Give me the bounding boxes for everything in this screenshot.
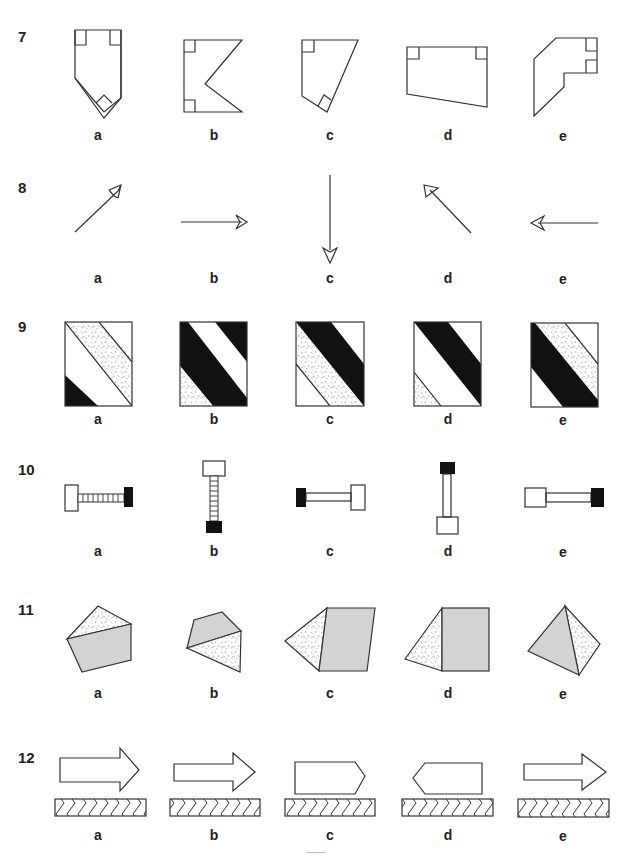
q8-label-a: a bbox=[88, 270, 108, 286]
q11-label-e: e bbox=[553, 686, 573, 702]
q9-option-b-square[interactable] bbox=[180, 322, 247, 406]
q7-label-d: d bbox=[438, 127, 458, 143]
q7-option-d-figure[interactable] bbox=[407, 47, 487, 107]
q11-label-b: b bbox=[204, 685, 224, 701]
q9-option-c-square[interactable] bbox=[296, 322, 364, 406]
q7-option-b-figure[interactable] bbox=[184, 40, 242, 112]
q9-option-e-square[interactable] bbox=[531, 323, 598, 407]
q9-label-a: a bbox=[88, 411, 108, 427]
q10-option-b-dumbbell[interactable] bbox=[203, 461, 225, 533]
q10-label-b: b bbox=[204, 543, 224, 559]
q9-label-d: d bbox=[438, 411, 458, 427]
q7-label-b: b bbox=[204, 127, 224, 143]
q12-option-c-pentagon[interactable] bbox=[285, 762, 375, 816]
q8-option-c-arrow[interactable] bbox=[323, 175, 337, 263]
q12-label-e: e bbox=[553, 828, 573, 844]
question-number-8: 8 bbox=[18, 179, 26, 196]
q11-option-b-polygon[interactable] bbox=[187, 612, 241, 672]
q11-option-e-polygon[interactable] bbox=[528, 606, 600, 675]
q11-label-d: d bbox=[438, 685, 458, 701]
q12-option-a-arrow[interactable] bbox=[55, 748, 146, 816]
q10-option-a-dumbbell[interactable] bbox=[65, 485, 133, 511]
q8-label-b: b bbox=[204, 270, 224, 286]
q9-label-b: b bbox=[204, 411, 224, 427]
q12-label-c: c bbox=[320, 827, 340, 843]
q9-label-e: e bbox=[553, 412, 573, 428]
q12-option-b-arrow[interactable] bbox=[170, 753, 260, 816]
q11-option-a-polygon[interactable] bbox=[67, 606, 131, 672]
question-number-10: 10 bbox=[18, 461, 35, 478]
question-number-11: 11 bbox=[18, 601, 34, 618]
q7-option-a-figure[interactable] bbox=[75, 30, 121, 118]
q10-option-d-dumbbell[interactable] bbox=[437, 462, 458, 534]
q8-label-e: e bbox=[553, 271, 573, 287]
q12-label-d: d bbox=[438, 827, 458, 843]
q10-option-c-dumbbell[interactable] bbox=[296, 485, 365, 510]
q8-option-e-arrow[interactable] bbox=[531, 216, 598, 230]
q11-label-c: c bbox=[320, 685, 340, 701]
q9-option-a-square[interactable] bbox=[65, 322, 132, 406]
q10-label-c: c bbox=[320, 543, 340, 559]
q12-option-e-arrow[interactable] bbox=[518, 754, 609, 817]
q11-label-a: a bbox=[88, 685, 108, 701]
q8-label-c: c bbox=[320, 270, 340, 286]
q11-option-c-polygon[interactable] bbox=[285, 608, 375, 671]
q8-option-b-arrow[interactable] bbox=[181, 215, 247, 229]
q10-option-e-dumbbell[interactable] bbox=[525, 488, 604, 507]
q10-label-a: a bbox=[88, 543, 108, 559]
q8-option-d-arrow[interactable] bbox=[424, 185, 471, 233]
q12-option-d-pentagon[interactable] bbox=[402, 763, 493, 816]
question-number-7: 7 bbox=[18, 28, 26, 45]
q12-label-a: a bbox=[88, 827, 108, 843]
question-number-9: 9 bbox=[18, 318, 26, 335]
q10-label-e: e bbox=[553, 544, 573, 560]
q9-label-c: c bbox=[320, 411, 340, 427]
q7-option-c-figure[interactable] bbox=[302, 40, 358, 112]
question-number-12: 12 bbox=[18, 749, 35, 766]
q8-label-d: d bbox=[438, 270, 458, 286]
q7-option-e-figure[interactable] bbox=[534, 38, 597, 116]
q7-label-c: c bbox=[320, 127, 340, 143]
q8-option-a-arrow[interactable] bbox=[75, 185, 121, 232]
q11-option-d-polygon[interactable] bbox=[405, 608, 489, 671]
q7-label-a: a bbox=[88, 127, 108, 143]
q12-label-b: b bbox=[204, 827, 224, 843]
q7-label-e: e bbox=[553, 128, 573, 144]
q9-option-d-square[interactable] bbox=[414, 322, 481, 406]
q10-label-d: d bbox=[438, 543, 458, 559]
